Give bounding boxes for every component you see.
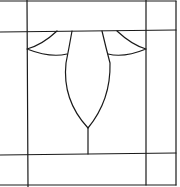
stained-glass-pattern xyxy=(0,0,180,187)
inner-vertical-left xyxy=(27,0,28,187)
left-petal-shape xyxy=(27,31,67,55)
inner-horizontal-top xyxy=(0,30,176,32)
pattern-drawing xyxy=(0,0,180,187)
right-petal-shape xyxy=(108,31,146,55)
center-leaf-shape xyxy=(65,31,110,128)
